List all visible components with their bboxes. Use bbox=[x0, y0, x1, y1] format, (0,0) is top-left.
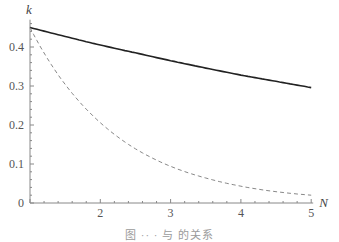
y-tick-label: 0.3 bbox=[9, 79, 24, 93]
series bbox=[30, 28, 311, 196]
y-axis-label: k bbox=[26, 2, 32, 17]
x-tick-label: 3 bbox=[168, 206, 174, 220]
y-tick-label: 0 bbox=[18, 196, 24, 210]
y-tick-label: 0.2 bbox=[9, 118, 24, 132]
x-tick-label: 2 bbox=[97, 206, 103, 220]
y-tick-label: 0.4 bbox=[9, 40, 24, 54]
figure-caption: 图 ·· · 与 的关系 bbox=[0, 226, 339, 242]
x-tick-label: 5 bbox=[308, 206, 314, 220]
x-tick-label: 4 bbox=[238, 206, 244, 220]
y-tick-label: 0.1 bbox=[9, 157, 24, 171]
x-axis-label: N bbox=[318, 195, 329, 210]
solid-line bbox=[30, 28, 311, 88]
dashed-line bbox=[30, 28, 311, 196]
